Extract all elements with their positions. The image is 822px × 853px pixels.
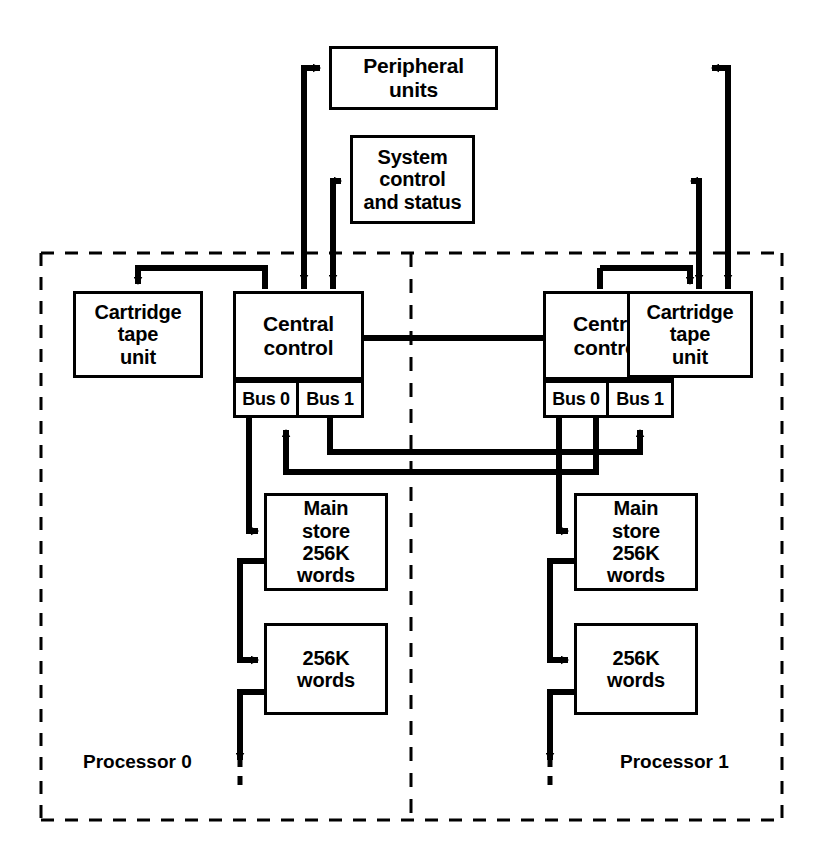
main-store-1-box[interactable]: Main store 256K words bbox=[574, 493, 698, 591]
processor-1-bus-1-label: Bus 1 bbox=[616, 389, 664, 410]
cartridge-tape-unit-0-box[interactable]: Cartridge tape unit bbox=[73, 291, 203, 378]
extra-store-1-box[interactable]: 256K words bbox=[574, 623, 698, 715]
processor-0-partition-label: Processor 0 bbox=[83, 751, 192, 773]
extra-store-0-box[interactable]: 256K words bbox=[264, 623, 388, 715]
processor-1-bus-0-label: Bus 0 bbox=[552, 389, 600, 410]
peripheral-units-label: Peripheral units bbox=[363, 54, 464, 101]
cartridge-tape-unit-1-box[interactable]: Cartridge tape unit bbox=[627, 291, 753, 378]
diagram-canvas: Peripheral units System control and stat… bbox=[0, 0, 822, 853]
processor-1-bus-1[interactable]: Bus 1 bbox=[606, 380, 674, 418]
extra-store-0-label: 256K words bbox=[297, 647, 355, 692]
processor-0-bus-0[interactable]: Bus 0 bbox=[233, 380, 299, 418]
processor-0-bus-1-label: Bus 1 bbox=[306, 389, 354, 410]
peripheral-units-box[interactable]: Peripheral units bbox=[329, 46, 498, 110]
processor-0-bus-1[interactable]: Bus 1 bbox=[296, 380, 364, 418]
connector-layer bbox=[0, 0, 822, 853]
processor-0-bus-0-label: Bus 0 bbox=[242, 389, 290, 410]
central-control-0-box[interactable]: Central control bbox=[233, 291, 364, 380]
cartridge-tape-unit-1-label: Cartridge tape unit bbox=[646, 301, 733, 368]
main-store-1-label: Main store 256K words bbox=[607, 497, 665, 587]
cartridge-tape-unit-0-label: Cartridge tape unit bbox=[94, 301, 181, 368]
central-control-0-label: Central control bbox=[263, 312, 334, 359]
main-store-0-box[interactable]: Main store 256K words bbox=[264, 493, 388, 591]
system-control-label: System control and status bbox=[363, 146, 461, 213]
main-store-0-label: Main store 256K words bbox=[297, 497, 355, 587]
extra-store-1-label: 256K words bbox=[607, 647, 665, 692]
processor-1-partition-label: Processor 1 bbox=[620, 751, 729, 773]
processor-1-bus-0[interactable]: Bus 0 bbox=[543, 380, 609, 418]
system-control-box[interactable]: System control and status bbox=[350, 135, 475, 224]
